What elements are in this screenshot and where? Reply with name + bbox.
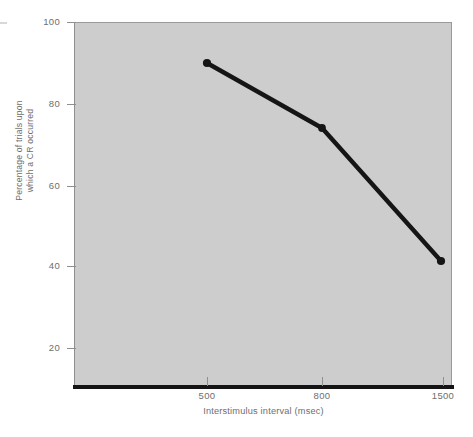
data-point-marker — [203, 59, 211, 67]
data-point-marker — [437, 257, 445, 265]
series-line — [207, 63, 441, 261]
chart-figure: 100 80 60 40 20 500 800 1500 Percentage … — [0, 0, 473, 437]
series-layer — [0, 0, 473, 437]
data-point-marker — [318, 124, 326, 132]
